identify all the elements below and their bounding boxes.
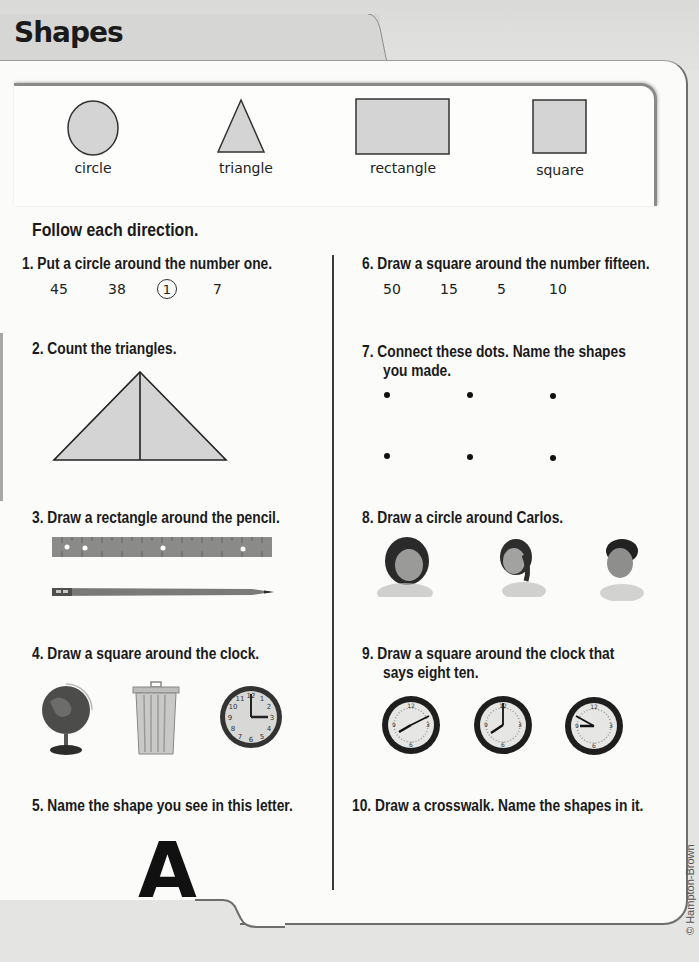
question-number: 10. [352,797,371,814]
question-1: 1. Put a circle around the number one. [22,254,272,274]
boy-photo-carlos[interactable] [596,535,646,601]
svg-text:10: 10 [229,703,238,711]
connect-dot[interactable] [467,454,473,460]
svg-text:9: 9 [228,714,232,722]
circled-number: 1 [157,279,177,299]
svg-text:3: 3 [518,721,522,728]
question-9-line2: says eight ten. [383,663,479,683]
question-text: Name the shape you see in this letter. [47,797,292,814]
legend-label-rectangle: rectangle [343,160,463,176]
connect-dot[interactable] [550,455,556,461]
trash-can-image [132,680,180,756]
clock-8-10[interactable]: 12369 [381,695,441,755]
question-text: Draw a circle around Carlos. [377,509,563,526]
svg-text:9: 9 [575,722,579,729]
question-9: 9. Draw a square around the clock that [362,644,614,664]
page-title: Shapes [14,16,123,49]
question-number: 7. [362,343,373,360]
question-number: 3. [32,509,43,526]
letter-image: A [138,833,197,909]
question-10: 10. Draw a crosswalk. Name the shapes in… [352,796,643,816]
girl-photo[interactable] [375,535,437,597]
svg-text:9: 9 [392,721,396,728]
question-text: Draw a square around the number fifteen. [377,255,649,272]
question-2: 2. Count the triangles. [32,339,177,359]
legend-label-triangle: triangle [186,160,306,176]
question-text: Count the triangles. [47,340,176,357]
question-number: 1. [22,255,33,272]
svg-text:12: 12 [407,702,415,709]
question-text: Draw a square around the clock that [377,645,614,662]
q6-number[interactable]: 50 [383,281,401,297]
svg-text:1: 1 [260,695,264,703]
svg-text:9: 9 [484,721,488,728]
q1-number-circled[interactable]: 1 [157,279,177,299]
legend-label-square: square [500,162,620,178]
left-margin-bar [0,333,3,501]
svg-text:11: 11 [236,695,245,703]
circle-shape [66,98,120,158]
question-number: 2. [32,340,43,357]
crosswalk-drawing-area[interactable] [345,825,645,895]
globe-image [40,680,95,756]
question-number: 6. [362,255,373,272]
q1-number[interactable]: 7 [213,281,222,297]
question-3: 3. Draw a rectangle around the pencil. [32,508,280,528]
question-text: Draw a rectangle around the pencil. [47,509,279,526]
clock-image: 12123 4567 891011 [218,684,284,750]
legend-label-circle: circle [33,160,153,176]
clock-9-50[interactable]: 12369 [564,696,624,756]
column-divider [332,255,334,890]
svg-text:6: 6 [592,742,596,749]
question-text: Draw a crosswalk. Name the shapes in it. [375,797,643,814]
question-text: Draw a square around the clock. [47,645,259,662]
square-shape [532,99,588,155]
svg-text:2: 2 [267,703,271,711]
connect-dot[interactable] [384,453,390,459]
question-7-line2: you made. [383,361,451,381]
triangle-figure [52,370,228,463]
svg-text:8: 8 [231,725,235,733]
question-4: 4. Draw a square around the clock. [32,644,259,664]
svg-text:3: 3 [609,722,613,729]
svg-text:5: 5 [260,733,264,741]
svg-text:7: 7 [238,733,242,741]
svg-text:3: 3 [270,714,274,722]
svg-text:12: 12 [590,703,598,710]
connect-dot[interactable] [550,393,556,399]
copyright-notice: © Hampton-Brown [684,844,696,935]
triangle-shape [216,98,266,154]
q6-number[interactable]: 10 [549,281,567,297]
question-8: 8. Draw a circle around Carlos. [362,508,563,528]
connect-dot[interactable] [384,392,390,398]
question-text: Connect these dots. Name the shapes [377,343,626,360]
clock-8-00[interactable]: 12369 [473,695,533,755]
card-notch [195,897,285,937]
svg-text:6: 6 [501,741,505,748]
question-number: 5. [32,797,43,814]
question-number: 4. [32,645,43,662]
svg-text:6: 6 [249,736,254,744]
connect-dot[interactable] [467,392,473,398]
q6-number[interactable]: 5 [497,281,506,297]
q1-number[interactable]: 38 [108,281,126,297]
girl-photo[interactable] [490,535,552,597]
question-5: 5. Name the shape you see in this letter… [32,796,293,816]
question-number: 8. [362,509,373,526]
q1-number[interactable]: 45 [50,281,68,297]
question-number: 9. [362,645,373,662]
question-text: Put a circle around the number one. [37,255,272,272]
rectangle-shape [355,98,451,156]
tab-curve [340,14,400,66]
svg-text:6: 6 [409,741,413,748]
instructions-heading: Follow each direction. [32,220,198,241]
question-6: 6. Draw a square around the number fifte… [362,254,649,274]
svg-text:4: 4 [267,725,272,733]
q6-number[interactable]: 15 [440,281,458,297]
ruler-image [52,537,272,559]
question-7: 7. Connect these dots. Name the shapes [362,342,626,362]
svg-text:3: 3 [426,721,430,728]
pencil-image [52,586,274,598]
